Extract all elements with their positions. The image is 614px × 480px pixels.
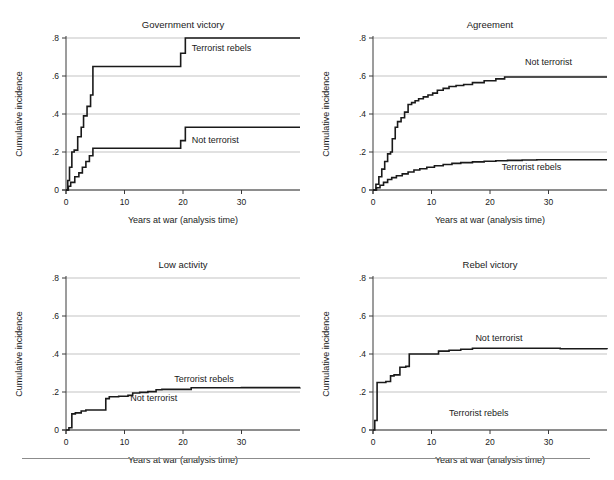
x-tick-label-0: 0 bbox=[371, 197, 376, 207]
x-axis-title: Years at war (analysis time) bbox=[128, 455, 238, 465]
series-label-terrorist-rebels: Terrorist rebels bbox=[192, 43, 252, 53]
panel-agreement: 0.2.4.6.80102030AgreementYears at war (a… bbox=[307, 0, 614, 240]
y-axis-title: Cumulative incidence bbox=[321, 71, 331, 157]
series-label-not-terrorist: Not terrorist bbox=[525, 57, 573, 67]
x-tick-label-1: 10 bbox=[120, 197, 130, 207]
y-tick-label-2: .4 bbox=[52, 349, 59, 359]
y-tick-label-1: .2 bbox=[359, 387, 366, 397]
y-axis-title: Cumulative incidence bbox=[14, 71, 24, 157]
x-tick-label-0: 0 bbox=[64, 197, 69, 207]
y-axis-title: Cumulative incidence bbox=[14, 311, 24, 397]
panel-title: Government victory bbox=[142, 19, 225, 30]
footer-rule bbox=[22, 458, 590, 459]
panel-svg-3: 0.2.4.6.80102030Rebel victoryYears at wa… bbox=[307, 240, 614, 480]
series-label-not-terrorist: Not terrorist bbox=[475, 333, 523, 343]
series-label-terrorist-rebels: Terrorist rebels bbox=[502, 162, 562, 172]
x-axis-title: Years at war (analysis time) bbox=[435, 455, 545, 465]
x-axis-title: Years at war (analysis time) bbox=[435, 215, 545, 225]
y-tick-label-1: .2 bbox=[359, 147, 366, 157]
y-tick-label-3: .6 bbox=[359, 311, 366, 321]
panel-svg-0: 0.2.4.6.80102030Government victoryYears … bbox=[0, 0, 307, 240]
y-tick-label-3: .6 bbox=[359, 71, 366, 81]
panel-grid: 0.2.4.6.80102030Government victoryYears … bbox=[0, 0, 614, 480]
curve-not-terrorist bbox=[66, 127, 300, 190]
y-tick-label-2: .4 bbox=[359, 349, 366, 359]
x-tick-label-1: 10 bbox=[427, 437, 437, 447]
x-tick-label-0: 0 bbox=[64, 437, 69, 447]
series-label-not-terrorist: Not terrorist bbox=[130, 393, 178, 403]
series-label-terrorist-rebels: Terrorist rebels bbox=[449, 408, 509, 418]
y-tick-label-4: .8 bbox=[52, 273, 59, 283]
y-tick-label-0: 0 bbox=[361, 425, 366, 435]
y-tick-label-3: .6 bbox=[52, 71, 59, 81]
x-tick-label-1: 10 bbox=[427, 197, 437, 207]
y-tick-label-2: .4 bbox=[52, 109, 59, 119]
x-axis-title: Years at war (analysis time) bbox=[128, 215, 238, 225]
panel-government-victory: 0.2.4.6.80102030Government victoryYears … bbox=[0, 0, 307, 240]
x-tick-label-3: 30 bbox=[237, 437, 247, 447]
series-label-terrorist-rebels: Terrorist rebels bbox=[174, 374, 234, 384]
y-tick-label-4: .8 bbox=[359, 33, 366, 43]
y-tick-label-4: .8 bbox=[359, 273, 366, 283]
panel-title: Rebel victory bbox=[463, 259, 518, 270]
y-tick-label-0: 0 bbox=[54, 185, 59, 195]
series-label-not-terrorist: Not terrorist bbox=[192, 135, 240, 145]
figure-canvas: 0.2.4.6.80102030Government victoryYears … bbox=[0, 0, 614, 480]
y-tick-label-1: .2 bbox=[52, 147, 59, 157]
panel-title: Agreement bbox=[467, 19, 514, 30]
y-tick-label-3: .6 bbox=[52, 311, 59, 321]
y-tick-label-0: 0 bbox=[361, 185, 366, 195]
panel-rebel-victory: 0.2.4.6.80102030Rebel victoryYears at wa… bbox=[307, 240, 614, 480]
x-tick-label-2: 20 bbox=[485, 197, 495, 207]
y-tick-label-0: 0 bbox=[54, 425, 59, 435]
panel-svg-1: 0.2.4.6.80102030AgreementYears at war (a… bbox=[307, 0, 614, 240]
y-tick-label-4: .8 bbox=[52, 33, 59, 43]
panel-low-activity: 0.2.4.6.80102030Low activityYears at war… bbox=[0, 240, 307, 480]
x-tick-label-3: 30 bbox=[544, 437, 554, 447]
panel-title: Low activity bbox=[158, 259, 207, 270]
curve-terrorist-rebels bbox=[66, 387, 300, 430]
curve-terrorist-rebels bbox=[373, 160, 607, 190]
x-tick-label-1: 10 bbox=[120, 437, 130, 447]
x-tick-label-2: 20 bbox=[485, 437, 495, 447]
panel-svg-2: 0.2.4.6.80102030Low activityYears at war… bbox=[0, 240, 307, 480]
x-tick-label-3: 30 bbox=[237, 197, 247, 207]
x-tick-label-0: 0 bbox=[371, 437, 376, 447]
x-tick-label-2: 20 bbox=[178, 437, 188, 447]
y-tick-label-1: .2 bbox=[52, 387, 59, 397]
x-tick-label-2: 20 bbox=[178, 197, 188, 207]
x-tick-label-3: 30 bbox=[544, 197, 554, 207]
y-axis-title: Cumulative incidence bbox=[321, 311, 331, 397]
y-tick-label-2: .4 bbox=[359, 109, 366, 119]
